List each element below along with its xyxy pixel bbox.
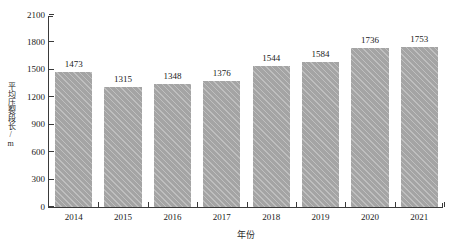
- bar-value-label: 1473: [65, 59, 83, 69]
- bar: 1584: [302, 62, 339, 207]
- x-axis-tick: [444, 202, 445, 207]
- bar-chart: 平均压裂段长/m 03006009001200150018002100 2014…: [0, 0, 460, 250]
- y-axis-tick-label: 1200: [27, 92, 45, 102]
- y-axis-tick-label: 900: [32, 119, 46, 129]
- x-axis-tick-label: 2014: [65, 212, 83, 222]
- x-axis-tick-label: 2015: [114, 212, 132, 222]
- y-axis-tick-label: 600: [32, 147, 46, 157]
- x-axis-tick-label: 2021: [410, 212, 428, 222]
- y-axis-tick-label: 300: [32, 174, 46, 184]
- x-axis-tick-label: 2018: [262, 212, 280, 222]
- y-axis-title: 平均压裂段长/m: [2, 50, 18, 180]
- x-axis-tick-label: 2017: [213, 212, 231, 222]
- bar: 1544: [253, 66, 290, 207]
- bar: 1376: [203, 81, 240, 207]
- x-axis-tick-label: 2019: [312, 212, 330, 222]
- plot-area: 03006009001200150018002100 2014201520162…: [48, 16, 443, 208]
- bar: 1315: [104, 87, 141, 207]
- bar-value-label: 1376: [213, 68, 231, 78]
- bar-value-label: 1315: [114, 74, 132, 84]
- y-axis-tick-label: 0: [41, 202, 46, 212]
- x-axis-title: 年份: [48, 228, 443, 241]
- bar: 1473: [55, 72, 92, 207]
- bar: 1753: [401, 47, 438, 207]
- bar-value-label: 1736: [361, 35, 379, 45]
- y-axis-tick-label: 2100: [27, 10, 45, 20]
- bar: 1348: [154, 84, 191, 207]
- bar-value-label: 1348: [163, 71, 181, 81]
- x-axis-tick-label: 2020: [361, 212, 379, 222]
- y-axis-tick: 2100: [49, 14, 54, 15]
- y-axis-tick-label: 1800: [27, 37, 45, 47]
- bar-series: 14731315134813761544158417361753: [49, 16, 443, 207]
- bar-value-label: 1753: [410, 34, 428, 44]
- y-axis-tick-label: 1500: [27, 64, 45, 74]
- bar-value-label: 1544: [262, 53, 280, 63]
- bar-value-label: 1584: [312, 49, 330, 59]
- bar: 1736: [351, 48, 388, 207]
- x-axis-tick-label: 2016: [163, 212, 181, 222]
